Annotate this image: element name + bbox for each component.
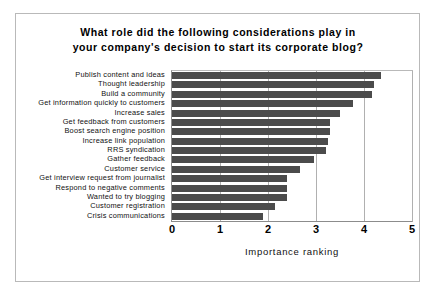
bar	[172, 100, 353, 107]
plot-area	[171, 70, 413, 222]
bar	[172, 147, 326, 154]
y-axis-label: Crisis communications	[87, 211, 165, 221]
bar	[172, 194, 287, 201]
chart-title-line-2: your company's decision to start its cor…	[34, 40, 402, 55]
x-tick-label: 5	[402, 223, 422, 235]
y-axis-category-labels: Publish content and ideasThought leaders…	[16, 70, 169, 222]
bar	[172, 128, 330, 135]
gridline-x-5	[412, 71, 413, 221]
x-axis-title: Importance ranking	[171, 246, 413, 257]
bar	[172, 156, 314, 163]
bar	[172, 91, 372, 98]
bar	[172, 185, 287, 192]
chart-figure: What role did the following consideratio…	[15, 13, 420, 282]
chart-title-line-1: What role did the following consideratio…	[34, 25, 402, 40]
bar	[172, 175, 287, 182]
bar	[172, 138, 328, 145]
x-tick-label: 2	[258, 223, 278, 235]
bar-row	[172, 212, 412, 222]
x-tick-label: 3	[306, 223, 326, 235]
x-axis-tick-labels: 012345	[171, 223, 413, 239]
bar	[172, 119, 330, 126]
x-tick-label: 0	[162, 223, 182, 235]
bar	[172, 166, 300, 173]
bar	[172, 213, 263, 220]
chart-title: What role did the following consideratio…	[34, 25, 402, 55]
x-tick-label: 4	[354, 223, 374, 235]
bar	[172, 72, 381, 79]
bar	[172, 203, 275, 210]
x-tick-label: 1	[210, 223, 230, 235]
bar	[172, 81, 374, 88]
bar	[172, 110, 340, 117]
